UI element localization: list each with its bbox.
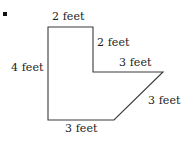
label-diagonal-side: 3 feet [148, 95, 181, 107]
label-bottom-side: 3 feet [65, 123, 98, 135]
label-right-lower-side: 3 feet [119, 57, 152, 69]
label-left-side: 4 feet [11, 62, 44, 74]
label-right-upper-side: 2 feet [97, 37, 130, 49]
geometry-figure: 2 feet 2 feet 3 feet 4 feet 3 feet 3 fee… [0, 0, 188, 141]
label-top-side: 2 feet [52, 11, 85, 23]
